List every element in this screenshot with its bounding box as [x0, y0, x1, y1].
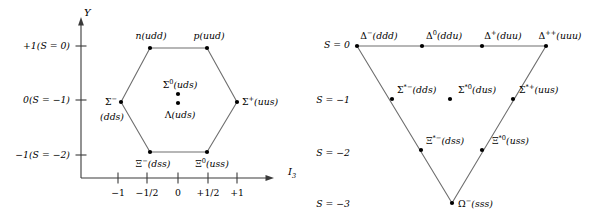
dot-xi-star-minus [419, 148, 423, 152]
decuplet-label-delta-plus-symbol: Δ [484, 30, 491, 41]
decuplet-label-delta-plusplus: Δ++(uuu) [539, 30, 582, 40]
decuplet-label-xi-star-zero-quarks: (uss) [506, 135, 529, 146]
decuplet-label-delta-zero: Δ0(ddu) [426, 30, 462, 40]
decuplet-label-sigma-star-plus-symbol: Σ [519, 84, 526, 95]
decuplet-s-label-0: S = 0 [324, 40, 350, 49]
decuplet-label-sigma-star-minus: Σ*−(dds) [397, 84, 436, 94]
decuplet-label-delta-plusplus-sup: ++ [545, 29, 556, 37]
dot-omega-minus [450, 201, 454, 205]
decuplet-label-delta-minus-quarks: (ddd) [373, 30, 398, 41]
decuplet-label-sigma-star-plus-quarks: (uus) [534, 84, 558, 95]
decuplet-label-xi-star-zero: Ξ*0(uss) [492, 135, 529, 145]
baryon-multiplet-figure: Y I3 +1(S = 0) 0(S = −1) −1(S = −2) −1 −… [0, 0, 591, 214]
decuplet-label-delta-zero-quarks: (ddu) [437, 30, 462, 41]
decuplet-triangle [357, 46, 546, 203]
decuplet-label-omega-minus-quarks: (sss) [471, 198, 493, 209]
decuplet-label-sigma-star-minus-quarks: (dds) [412, 84, 436, 95]
decuplet-label-delta-minus-symbol: Δ [360, 30, 367, 41]
dot-delta-zero [420, 44, 424, 48]
decuplet-label-xi-star-zero-sup: *0 [499, 134, 507, 142]
decuplet-label-omega-minus-symbol: Ω [458, 198, 466, 209]
dot-delta-plus [480, 44, 484, 48]
decuplet-label-delta-plusplus-symbol: Δ [539, 30, 546, 41]
decuplet-label-omega-minus: Ω−(sss) [458, 198, 493, 208]
decuplet-label-sigma-star-zero: Σ*0(dus) [458, 84, 496, 94]
decuplet-label-delta-zero-symbol: Δ [426, 30, 433, 41]
decuplet-label-xi-star-minus: Ξ*−(dss) [426, 135, 464, 145]
decuplet-label-sigma-star-zero-sup: *0 [465, 83, 473, 91]
decuplet-s-label-minus3: S = −3 [316, 199, 350, 208]
decuplet-label-delta-plusplus-quarks: (uuu) [556, 30, 581, 41]
decuplet-label-sigma-star-minus-symbol: Σ [397, 84, 404, 95]
decuplet-label-delta-plus: Δ+(duu) [484, 30, 521, 40]
decuplet-s-label-minus1: S = −1 [316, 95, 350, 104]
decuplet-label-xi-star-minus-quarks: (dss) [441, 135, 464, 146]
dot-xi-star-zero [480, 148, 484, 152]
decuplet-label-sigma-star-zero-quarks: (dus) [472, 84, 496, 95]
dot-delta-minus [355, 44, 359, 48]
dot-delta-plusplus [544, 44, 548, 48]
dot-sigma-star-plus [511, 97, 515, 101]
decuplet-label-delta-plus-quarks: (duu) [497, 30, 522, 41]
decuplet-state-dots [355, 44, 548, 205]
dot-sigma-star-zero [448, 97, 452, 101]
decuplet-label-delta-minus: Δ−(ddd) [360, 30, 397, 40]
decuplet-s-label-minus2: S = −2 [316, 148, 350, 157]
dot-sigma-star-minus [390, 97, 394, 101]
decuplet-label-sigma-star-plus: Σ*+(uus) [519, 84, 558, 94]
